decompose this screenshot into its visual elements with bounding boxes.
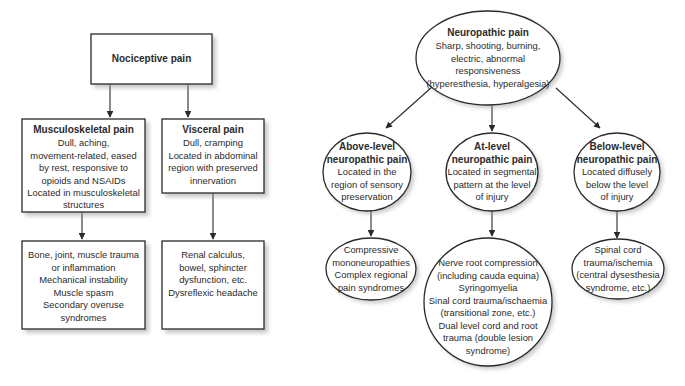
musculoskeletal-causes-line-4: Secondary overuse xyxy=(43,299,124,310)
at-level-causes-line-5: Dual level cord and root xyxy=(438,320,537,331)
at-level-title-1: neuropathic pain xyxy=(452,154,533,165)
below-level-causes-line-3: syndrome, etc.) xyxy=(586,282,651,293)
at-level-line-0: Located in segmental xyxy=(447,166,536,177)
musculoskeletal-causes-line-0: Bone, joint, muscle trauma xyxy=(28,249,140,260)
neuropathic-branch: Neuropathic pain Sharp, shooting, burnin… xyxy=(323,11,667,369)
musculoskeletal-line-5: structures xyxy=(63,199,104,210)
at-level-causes-line-6: trauma (double lesion xyxy=(443,332,533,343)
nociceptive-pain-title: Nociceptive pain xyxy=(112,53,191,64)
above-level-causes-line-1: mononeuropathies xyxy=(332,257,410,268)
musculoskeletal-line-4: Located in musculoskeletal xyxy=(27,187,140,198)
below-level-causes-node: Spinal cord trauma/ischemia (central dys… xyxy=(572,239,667,302)
neuropathic-pain-node: Neuropathic pain Sharp, shooting, burnin… xyxy=(416,11,563,108)
musculoskeletal-pain-title: Musculoskeletal pain xyxy=(33,124,134,135)
at-level-causes-line-2: Syringomyelia xyxy=(459,282,519,293)
at-level-causes-line-4: (transitional zone, etc.) xyxy=(441,307,536,318)
below-level-line-1: below the level xyxy=(586,179,648,190)
above-level-line-2: preservation xyxy=(341,191,393,202)
pain-classification-diagram: Nociceptive pain Musculoskeletal pain Du… xyxy=(0,0,685,386)
visceral-line-1: Located in abdominal xyxy=(168,150,257,161)
nociceptive-pain-node: Nociceptive pain xyxy=(91,34,216,88)
neuropathic-line-1: electric, abnormal xyxy=(451,53,525,64)
visceral-line-2: region with preserved xyxy=(168,162,258,173)
at-level-causes-line-7: syndrome) xyxy=(466,345,510,356)
musculoskeletal-causes-line-5: syndromes xyxy=(61,312,107,323)
visceral-line-3: innervation xyxy=(190,175,236,186)
above-level-causes-line-0: Compressive xyxy=(344,244,399,255)
above-level-title-0: Above-level xyxy=(339,141,395,152)
below-level-title-0: Below-level xyxy=(589,141,644,152)
neuropathic-pain-title: Neuropathic pain xyxy=(447,27,529,38)
musculoskeletal-causes-line-3: Muscle spasm xyxy=(54,287,114,298)
above-level-line-1: region of sensory xyxy=(331,179,403,190)
below-level-line-0: Located diffusely xyxy=(582,166,653,177)
at-level-causes-line-0: Nerve root compression xyxy=(438,257,538,268)
edge-neuropathic-to-below-level xyxy=(556,88,600,128)
above-level-causes-node: Compressive mononeuropathies Complex reg… xyxy=(326,238,419,303)
musculoskeletal-causes-line-2: Mechanical instability xyxy=(39,274,128,285)
musculoskeletal-line-1: movement-related, eased xyxy=(30,150,136,161)
above-level-line-0: Located in the xyxy=(338,166,397,177)
visceral-pain-node: Visceral pain Dull, cramping Located in … xyxy=(162,119,268,197)
visceral-causes-line-2: dysfunction, etc. xyxy=(179,274,247,285)
musculoskeletal-line-3: opioids and NSAIDs xyxy=(42,175,126,186)
visceral-causes-line-1: bowel, sphincter xyxy=(179,262,247,273)
above-level-causes-line-3: pain syndromes xyxy=(338,282,404,293)
visceral-line-0: Dull, cramping xyxy=(183,137,243,148)
musculoskeletal-causes-node: Bone, joint, muscle trauma or inflammati… xyxy=(22,241,149,333)
neuropathic-line-2: responsiveness xyxy=(455,65,520,76)
nociceptive-branch: Nociceptive pain Musculoskeletal pain Du… xyxy=(22,34,268,333)
neuropathic-line-0: Sharp, shooting, burning, xyxy=(436,40,541,51)
neuropathic-line-3: (hyperesthesia, hyperalgesia) xyxy=(427,78,550,89)
musculoskeletal-causes-line-1: or inflammation xyxy=(51,262,115,273)
musculoskeletal-pain-node: Musculoskeletal pain Dull, aching, movem… xyxy=(22,119,149,216)
at-level-title-0: At-level xyxy=(474,141,510,152)
below-level-pain-node: Below-level neuropathic pain Located dif… xyxy=(574,133,663,214)
above-level-pain-node: Above-level neuropathic pain Located in … xyxy=(323,133,414,214)
visceral-causes-node: Renal calculus, bowel, sphincter dysfunc… xyxy=(162,241,268,333)
visceral-pain-title: Visceral pain xyxy=(182,124,244,135)
at-level-causes-node: Nerve root compression (including cauda … xyxy=(424,238,555,369)
at-level-line-2: of injury xyxy=(476,191,509,202)
below-level-causes-line-2: (central dysesthesia xyxy=(576,269,660,280)
visceral-causes-line-0: Renal calculus, xyxy=(181,249,245,260)
musculoskeletal-line-2: by rest, responsive to xyxy=(39,162,128,173)
edge-neuropathic-to-above-level xyxy=(386,87,432,128)
below-level-causes-line-1: trauma/ischemia xyxy=(584,257,654,268)
musculoskeletal-line-0: Dull, aching, xyxy=(58,137,110,148)
below-level-title-1: neuropathic pain xyxy=(577,154,658,165)
at-level-pain-node: At-level neuropathic pain Located in seg… xyxy=(446,133,541,214)
above-level-causes-line-2: Complex regional xyxy=(335,269,408,280)
above-level-title-1: neuropathic pain xyxy=(327,154,408,165)
at-level-causes-line-3: Sinal cord trauma/ischaemia xyxy=(429,295,548,306)
below-level-causes-line-0: Spinal cord xyxy=(595,244,642,255)
below-level-line-2: of injury xyxy=(601,191,634,202)
at-level-causes-line-1: (including cauda equina) xyxy=(437,270,539,281)
visceral-causes-line-3: Dysreflexic headache xyxy=(168,287,258,298)
at-level-line-1: pattern at the level xyxy=(453,179,530,190)
